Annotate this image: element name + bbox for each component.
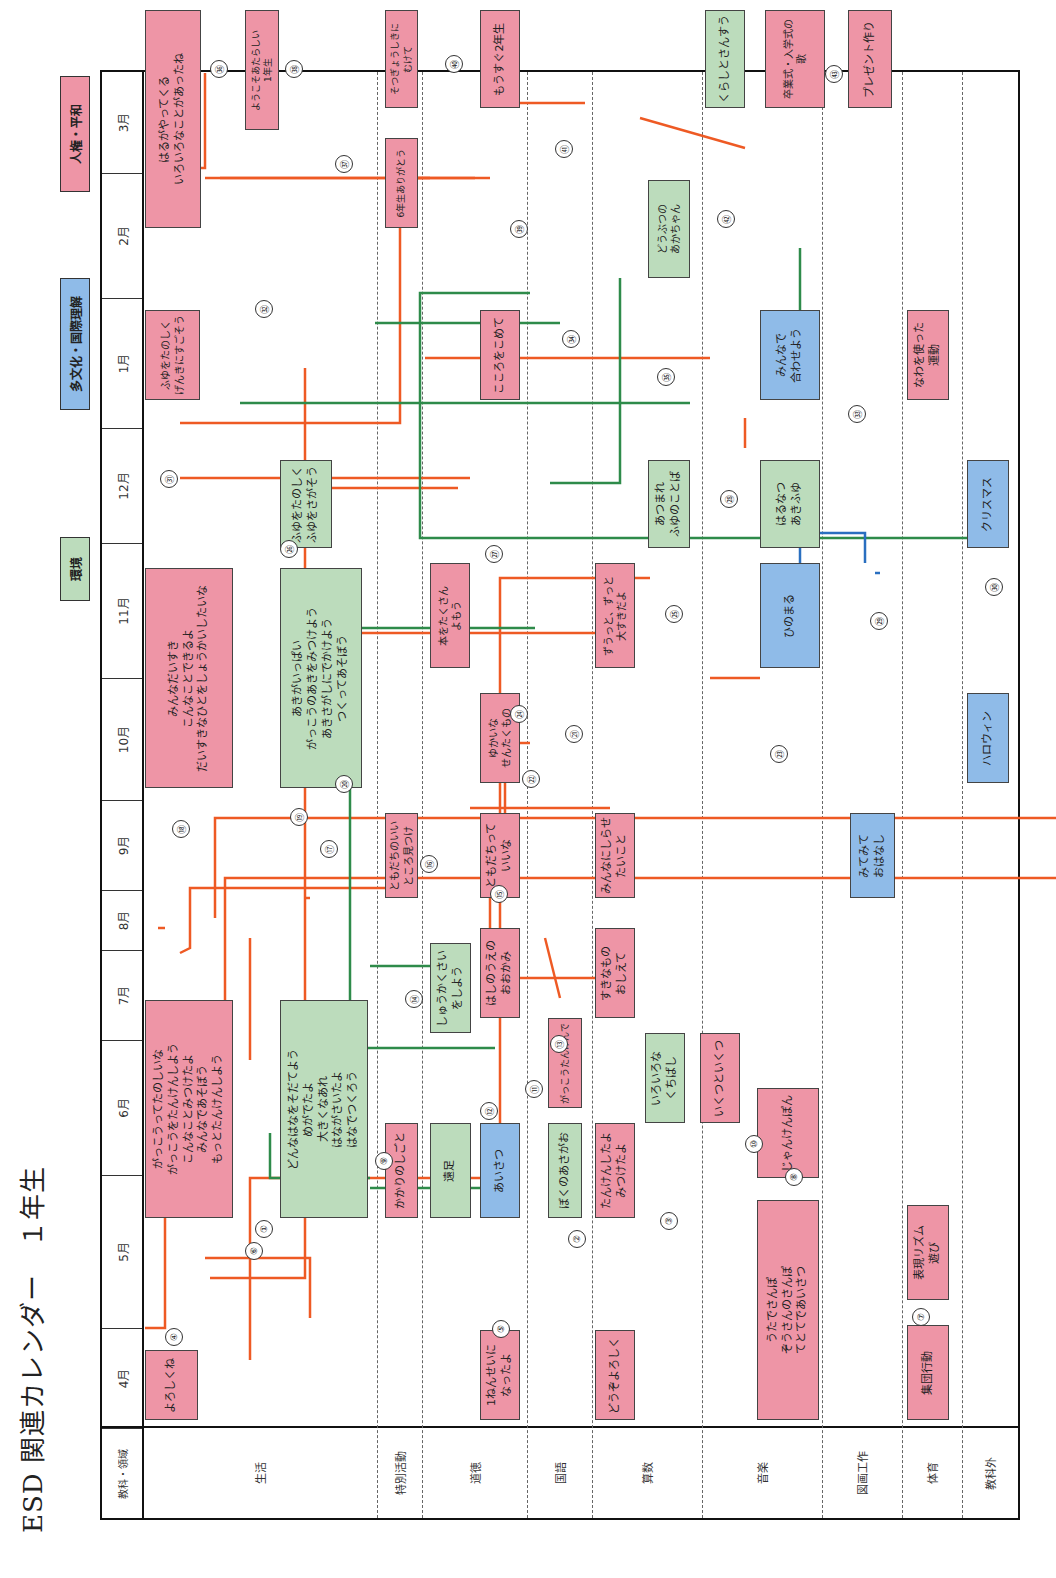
box-kuchibashi: いろいろな くちばし [645, 1033, 685, 1123]
box-jankenpon: じゃんけんぽん [757, 1088, 819, 1178]
link-number: ㉒ [522, 770, 540, 788]
box-haru-yattekuru: はるがやってくる いろいろなことがあったね [145, 10, 201, 228]
box-hyougen-rhythm: 表現リズム 遊び [907, 1205, 949, 1300]
box-hon-takusan: 本をたくさん よもう [430, 563, 470, 668]
link-number: ㉞ [562, 330, 580, 348]
box-shuukakusai: しゅうかくさいをしよう [430, 943, 471, 1033]
box-aki-ippai: あきがいっぱい がっこうのあきをみつけよう あきさがしにでかけよう つくってあそ… [280, 568, 362, 788]
link-number: ㊲ [335, 155, 353, 173]
link-number: ② [568, 1230, 586, 1248]
link-number: ㊸ [825, 65, 843, 83]
box-halloween: ハロウィン [967, 693, 1009, 783]
box-uta-sanpo: うたでさんぽ ぞうさんのさんぽ てとてであいさつ [757, 1200, 819, 1420]
link-number: ⑳ [335, 775, 353, 793]
link-number: ⑱ [172, 820, 190, 838]
box-minna-daisuki: みんなだいすき こんなことできるよ だいすきなひとをしょうかいしたいな [145, 568, 233, 788]
link-number: ⑲ [290, 808, 308, 826]
link-number: ① [255, 1220, 273, 1238]
link-number: ㉕ [665, 605, 683, 623]
link-number: ㉝ [848, 405, 866, 423]
box-kurashi-sansuu: くらしとさんすう [705, 10, 745, 108]
link-number: ⑬ [550, 1035, 568, 1053]
link-number: ㉚ [985, 578, 1003, 596]
link-number: ⑦ [912, 1308, 930, 1326]
link-number: ⑭ [405, 990, 423, 1008]
link-number: ⑫ [480, 1102, 498, 1120]
box-aisatsu: あいさつ [480, 1123, 520, 1218]
link-number: ④ [165, 1328, 183, 1346]
link-number: ㊳ [285, 60, 303, 78]
box-harunatsu: はるなつ あきふゆ [760, 460, 820, 548]
box-hashi-ookami: はしのうえの おおかみ [480, 928, 520, 1018]
box-douzo-yoroshiku: どうぞよろしく [595, 1330, 635, 1420]
box-zutto-daisuki: ずうっと、ずっと 大すきだよ [595, 563, 635, 668]
box-sotsugyou-uta: 卒業式・入学式の 歌 [765, 10, 825, 108]
box-youkoso-1nensei: ようこそあたらしい 1年生 [245, 10, 279, 130]
box-present: プレゼント作り [848, 10, 892, 108]
box-fuyu-sagasou: ふゆをたのしく ふゆをさがそう [280, 460, 332, 548]
box-1nensei-natta: 1ねんせいに なったよ [480, 1330, 520, 1420]
box-fuyu-genki: ふゆをたのしく げんきにすごそう [145, 310, 200, 400]
box-nawa-undou: なわを使った 運動 [907, 310, 949, 400]
link-number: ㉗ [485, 545, 503, 563]
box-ikutsu: いくつといくつ [700, 1033, 740, 1123]
box-mousugu-2nensei: もうすぐ2年生 [480, 10, 520, 108]
box-mitemite-ohanashi: みてみて おはなし [850, 813, 895, 898]
box-kokoro-komete: こころをこめて [480, 310, 520, 400]
link-number: ⑯ [420, 855, 438, 873]
box-sukinamono: すきなもの おしえて [595, 928, 635, 1018]
box-minna-awaseyou: みんなで 合わせよう [760, 310, 820, 400]
link-number: ㊷ [717, 210, 735, 228]
link-number: ㉙ [870, 612, 888, 630]
link-number: ㉑ [565, 725, 583, 743]
box-hana-sodateyou: どんなはなをそだてよう めがでたよ 大きくなあれ はながさいたよ はなでつくろう [280, 1000, 368, 1218]
box-gakkou-tanken: がっこうたんけんで [548, 1018, 582, 1108]
box-boku-asagao: ぼくのあさがお [548, 1123, 582, 1218]
box-kakari-shigoto: かかりのしごと [385, 1123, 418, 1218]
link-number: ⑨ [375, 1152, 393, 1170]
box-yoroshikune: よろしくね [145, 1350, 198, 1420]
box-sotsugyoushiki: そつぎょうしきに むけて [385, 10, 418, 108]
box-tomodachi-ii-tokoro: ともだちのいい ところ見つけ [385, 813, 418, 898]
box-hinomaru: ひのまる [760, 563, 820, 668]
link-number: ㉛ [160, 470, 178, 488]
link-number: ㊱ [210, 60, 228, 78]
box-doubutsu-akachan: どうぶつの あかちゃん [648, 180, 690, 278]
box-christmas: クリスマス [967, 460, 1009, 548]
box-ensoku: 遠足 [430, 1123, 471, 1218]
link-number: ③ [660, 1212, 678, 1230]
link-number: ㊶ [555, 140, 573, 158]
link-number: ㉓ [770, 745, 788, 763]
box-atsumare-fuyu: あつまれ ふゆのことば [648, 460, 690, 548]
box-shuudan-koudou: 集団行動 [907, 1325, 949, 1420]
calendar-canvas: ESD 関連カレンダー １年生 環境 多文化・国際理解 人権・平和 教科・領域 … [0, 0, 1056, 1578]
link-number: ⑧ [785, 1168, 803, 1186]
link-number: ㉜ [255, 300, 273, 318]
box-gakkou-tanoshii: がっこうってたのしいな がっこうをたんけんしよう こんなことみつけたよ みんなで… [145, 1000, 233, 1218]
box-minna-shirase: みんなにしらせ たいこと [595, 813, 635, 898]
link-number: ㊴ [510, 220, 528, 238]
connector-lines [0, 0, 1056, 1578]
link-number: ⑰ [320, 840, 338, 858]
link-number: ㉔ [510, 705, 528, 723]
link-number: ㉘ [720, 490, 738, 508]
link-number: ⑪ [525, 1080, 543, 1098]
link-number: ⑤ [492, 1320, 510, 1338]
link-number: ㊵ [445, 55, 463, 73]
link-number: ⑩ [745, 1135, 763, 1153]
box-tanken-mitsuketa: たんけんしたよ みつけたよ [595, 1123, 635, 1218]
box-6nensei-arigatou: 6年生ありがとう [385, 138, 418, 228]
link-number: ㉖ [280, 540, 298, 558]
link-number: ⑮ [490, 885, 508, 903]
link-number: ㉟ [657, 368, 675, 386]
link-number: ⑥ [245, 1242, 263, 1260]
